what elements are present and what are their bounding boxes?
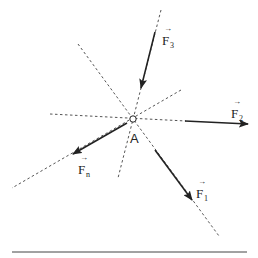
force-vector-f1 (155, 150, 192, 200)
vector-arrow-icon: → (233, 97, 241, 106)
svg-text:n: n (86, 170, 90, 179)
line-of-action-f1 (78, 44, 219, 236)
svg-text:2: 2 (239, 114, 243, 123)
line-of-action-f2 (50, 114, 186, 121)
force-vector-fn (73, 123, 127, 154)
label-f3: → F 3 (162, 24, 174, 50)
label-f1: → F 1 (196, 177, 208, 203)
svg-text:F: F (231, 106, 238, 121)
svg-text:3: 3 (170, 41, 174, 50)
force-vector-f3 (141, 32, 155, 88)
svg-text:F: F (162, 33, 169, 48)
vector-arrow-icon: → (164, 24, 172, 33)
label-f2: → F 2 (231, 97, 243, 123)
force-diagram: A → F 3 → F 2 → F n → F 1 (0, 0, 258, 258)
svg-text:1: 1 (204, 194, 208, 203)
svg-text:F: F (78, 162, 85, 177)
label-fn: → F n (78, 153, 90, 179)
vector-arrow-icon: → (198, 177, 206, 186)
line-of-action-fn (12, 90, 181, 188)
svg-text:F: F (196, 186, 203, 201)
point-a-label: A (130, 131, 139, 146)
vector-arrow-icon: → (80, 153, 88, 162)
point-a-marker (130, 116, 136, 122)
